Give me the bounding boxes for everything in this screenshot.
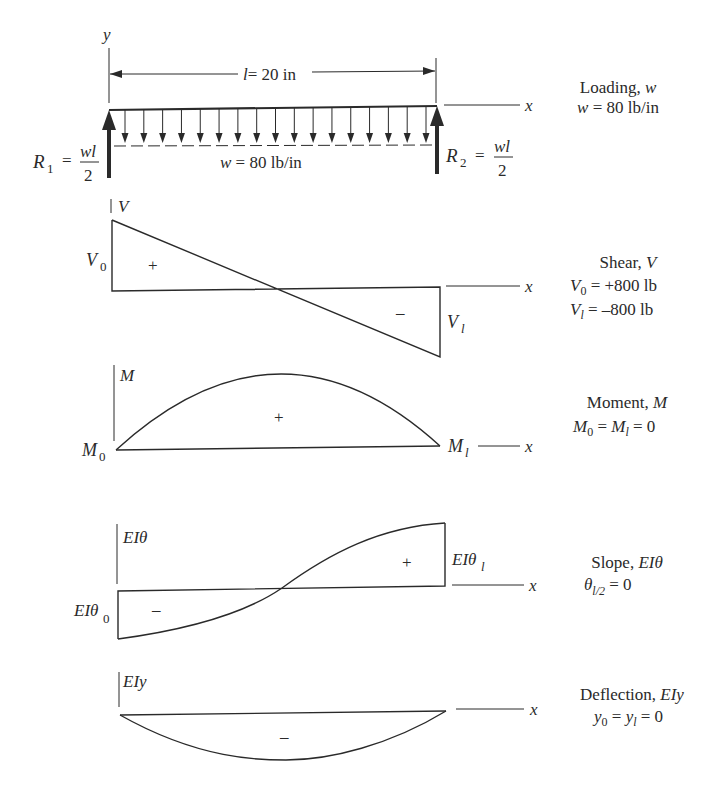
m-axis-label: M — [119, 366, 135, 385]
svg-text:1: 1 — [47, 161, 54, 176]
svg-text:l: l — [465, 445, 469, 460]
m0-label: M 0 — [81, 440, 106, 464]
negative-sign: – — [279, 727, 289, 746]
deflection-baseline — [120, 711, 446, 715]
svg-text:EIθ: EIθ — [451, 550, 476, 569]
arrowhead-down-icon — [140, 133, 147, 143]
loading-caption-title: Loading, w — [580, 78, 657, 97]
svg-text:=: = — [475, 146, 485, 165]
load-label: w = 80 lb/in — [220, 153, 302, 172]
y-axis-label: y — [101, 25, 111, 44]
positive-sign: + — [148, 256, 158, 275]
arrowhead-down-icon — [272, 133, 279, 143]
svg-text:0: 0 — [99, 449, 106, 464]
shear-caption-v0: V0 = +800 lb — [570, 276, 657, 298]
vl-label: V l — [447, 312, 465, 336]
span-label: l= 20 in — [243, 65, 297, 84]
slope-outline — [118, 523, 445, 639]
arrowhead-up-icon — [430, 106, 444, 126]
ml-label: M l — [447, 436, 469, 460]
arrowhead-down-icon — [159, 133, 166, 143]
arrowhead-down-icon — [385, 133, 392, 143]
v0-label: V 0 — [86, 250, 107, 274]
svg-text:=: = — [62, 151, 72, 170]
shear-outline — [112, 220, 440, 357]
eithetal-label: EIθ l — [451, 550, 485, 574]
moment-caption-title: Moment, M — [587, 393, 668, 412]
svg-text:wl: wl — [80, 142, 96, 161]
svg-text:EIθ: EIθ — [73, 601, 98, 620]
v-axis-label: V — [118, 197, 131, 216]
deflection-caption-value: y0 = yl = 0 — [592, 707, 663, 729]
deflection-caption-title: Deflection, EIy — [580, 685, 684, 704]
shear-caption-title: Shear, V — [600, 253, 660, 272]
deflection-axis-label: EIy — [122, 672, 147, 691]
arrowhead-down-icon — [234, 133, 241, 143]
arrowhead-right-icon — [423, 67, 435, 75]
shear-diagram: V x + – V 0 V l Shear, V V0 = +800 lb Vl… — [86, 197, 659, 357]
dimension-arrow-right — [312, 71, 435, 72]
arrowhead-down-icon — [328, 133, 335, 143]
distributed-load-arrows — [122, 106, 430, 143]
slope-caption-title: Slope, EIθ — [591, 553, 663, 572]
svg-text:R: R — [32, 151, 45, 172]
arrowhead-down-icon — [291, 133, 298, 143]
svg-text:M: M — [81, 440, 98, 460]
slope-diagram: EIθ x + – EIθ 0 EIθ l Slope, EIθ θl/2 = … — [73, 523, 663, 639]
slope-curve — [118, 523, 445, 639]
svg-text:l: l — [461, 321, 465, 336]
loading-diagram: y l= 20 in w = 80 lb/in R 1 = wl 2 R — [32, 25, 659, 185]
x-axis-label: x — [528, 576, 537, 595]
svg-text:2: 2 — [460, 155, 467, 170]
beam-line — [109, 106, 437, 110]
arrowhead-down-icon — [347, 133, 354, 143]
arrowhead-up-icon — [102, 110, 116, 130]
svg-text:0: 0 — [100, 259, 107, 274]
arrowhead-down-icon — [253, 133, 260, 143]
slope-caption-value: θl/2 = 0 — [584, 575, 632, 598]
arrowhead-down-icon — [197, 133, 204, 143]
svg-text:wl: wl — [494, 137, 510, 156]
loading-caption-value: w = 80 lb/in — [577, 98, 659, 117]
arrowhead-left-icon — [110, 70, 122, 78]
arrowhead-down-icon — [122, 133, 129, 143]
positive-sign: + — [402, 553, 412, 572]
arrowhead-down-icon — [216, 133, 223, 143]
positive-sign: + — [274, 408, 284, 427]
svg-text:0: 0 — [103, 611, 110, 626]
arrowhead-down-icon — [310, 133, 317, 143]
svg-text:R: R — [445, 145, 458, 166]
moment-caption-value: M0 = Ml = 0 — [572, 417, 655, 439]
shear-caption-vl: Vl = –800 lb — [570, 300, 653, 322]
svg-text:V: V — [447, 312, 460, 332]
deflection-diagram: EIy x – Deflection, EIy y0 = yl = 0 — [119, 672, 684, 760]
x-axis-label: x — [524, 96, 533, 115]
load-dashed-line — [114, 145, 436, 146]
x-axis-label: x — [529, 700, 538, 719]
slope-axis-label: EIθ — [122, 528, 147, 547]
r1-label: R 1 = wl 2 — [32, 142, 99, 185]
svg-text:l: l — [481, 559, 485, 574]
svg-text:M: M — [447, 436, 464, 456]
svg-text:V: V — [86, 250, 99, 270]
svg-text:2: 2 — [498, 161, 507, 180]
arrowhead-down-icon — [178, 133, 185, 143]
r2-label: R 2 = wl 2 — [445, 137, 513, 180]
arrowhead-down-icon — [366, 133, 373, 143]
negative-sign: – — [151, 600, 161, 619]
moment-diagram: M + M 0 M l x Moment, M M0 = Ml = 0 — [81, 365, 668, 464]
x-axis-label: x — [524, 277, 533, 296]
x-axis-label: x — [524, 437, 533, 456]
negative-sign: – — [395, 303, 405, 322]
svg-text:2: 2 — [84, 166, 93, 185]
eitheta0-label: EIθ 0 — [73, 601, 110, 626]
moment-baseline — [116, 446, 440, 450]
arrowhead-down-icon — [423, 133, 430, 143]
arrowhead-down-icon — [404, 133, 411, 143]
beam-diagram: y l= 20 in w = 80 lb/in R 1 = wl 2 R — [0, 0, 728, 799]
